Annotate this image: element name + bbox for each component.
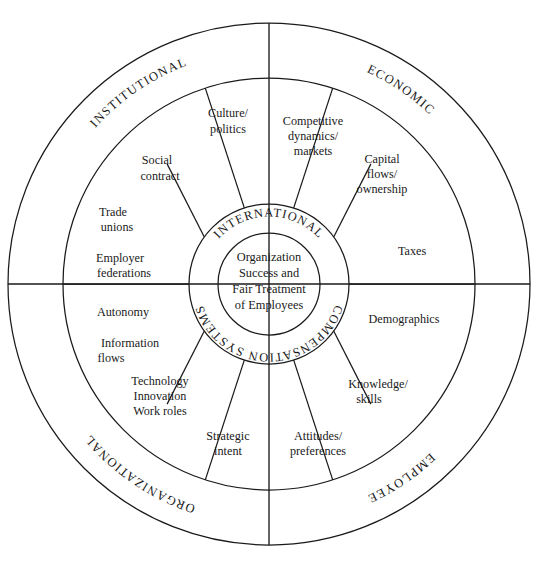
segment-demographics[interactable]: Demographics bbox=[368, 312, 439, 326]
svg-text:unions: unions bbox=[101, 220, 134, 234]
svg-text:dynamics/: dynamics/ bbox=[288, 129, 339, 143]
svg-text:federations: federations bbox=[97, 266, 151, 280]
svg-text:Autonomy: Autonomy bbox=[97, 305, 150, 319]
core-line-3: Fair Treatment bbox=[232, 282, 306, 296]
svg-text:Innovation: Innovation bbox=[134, 389, 187, 403]
quadrant-label-employee: EMPLOYEE bbox=[365, 451, 438, 507]
svg-text:politics: politics bbox=[210, 122, 246, 136]
svg-text:Strategic: Strategic bbox=[206, 429, 250, 443]
svg-text:intent: intent bbox=[214, 444, 242, 458]
core-line-2: Success and bbox=[239, 266, 300, 280]
diagram-canvas: INTERNATIONAL COMPENSATION SYSTEMS INSTI… bbox=[0, 0, 538, 566]
segment-competitive-dynamics-markets[interactable]: Competitive dynamics/ markets bbox=[283, 114, 343, 158]
svg-text:Demographics: Demographics bbox=[368, 312, 439, 326]
svg-text:Taxes: Taxes bbox=[398, 244, 427, 258]
segment-trade-unions-employer-federations[interactable]: Trade unions Employer federations bbox=[96, 205, 151, 280]
svg-text:Knowledge/: Knowledge/ bbox=[348, 377, 408, 391]
segment-culture-politics[interactable]: Culture/ politics bbox=[208, 106, 249, 136]
svg-text:skills: skills bbox=[356, 392, 382, 406]
svg-text:Culture/: Culture/ bbox=[208, 106, 249, 120]
segment-knowledge-skills[interactable]: Knowledge/ skills bbox=[348, 377, 408, 406]
core-line-4: of Employees bbox=[235, 298, 304, 312]
spoke-288 bbox=[294, 360, 333, 480]
segment-technology-innovation-work-roles[interactable]: Technology Innovation Work roles bbox=[131, 374, 189, 418]
quadrant-label-institutional: INSTITUTIONAL bbox=[87, 55, 189, 130]
svg-text:Social: Social bbox=[142, 153, 173, 167]
segment-capital-flows-ownership[interactable]: Capital flows/ ownership bbox=[357, 152, 408, 196]
svg-text:markets: markets bbox=[294, 144, 333, 158]
svg-text:preferences: preferences bbox=[290, 444, 346, 458]
spoke-36 bbox=[334, 164, 371, 237]
svg-text:Information: Information bbox=[101, 336, 159, 350]
svg-text:contract: contract bbox=[140, 169, 180, 183]
segment-social-contract[interactable]: Social contract bbox=[140, 153, 180, 183]
svg-text:flows: flows bbox=[97, 351, 124, 365]
svg-text:Competitive: Competitive bbox=[283, 114, 343, 128]
svg-text:Work roles: Work roles bbox=[133, 404, 187, 418]
svg-text:Technology: Technology bbox=[131, 374, 189, 388]
svg-text:ownership: ownership bbox=[357, 182, 408, 196]
spoke-252 bbox=[205, 360, 244, 480]
segment-autonomy-information-flows[interactable]: Autonomy Information flows bbox=[97, 305, 159, 365]
segment-attitudes-preferences[interactable]: Attitudes/ preferences bbox=[290, 429, 346, 458]
svg-text:Attitudes/: Attitudes/ bbox=[294, 429, 343, 443]
svg-text:Trade: Trade bbox=[99, 205, 127, 219]
svg-text:flows/: flows/ bbox=[367, 167, 398, 181]
quadrant-label-economic: ECONOMIC bbox=[365, 62, 438, 118]
svg-text:Capital: Capital bbox=[364, 152, 400, 166]
segment-strategic-intent[interactable]: Strategic intent bbox=[206, 429, 250, 458]
concentric-wheel-diagram: INTERNATIONAL COMPENSATION SYSTEMS INSTI… bbox=[0, 0, 538, 566]
core-line-1: Organization bbox=[237, 250, 301, 264]
segment-taxes[interactable]: Taxes bbox=[398, 244, 427, 258]
svg-text:Employer: Employer bbox=[96, 251, 144, 265]
